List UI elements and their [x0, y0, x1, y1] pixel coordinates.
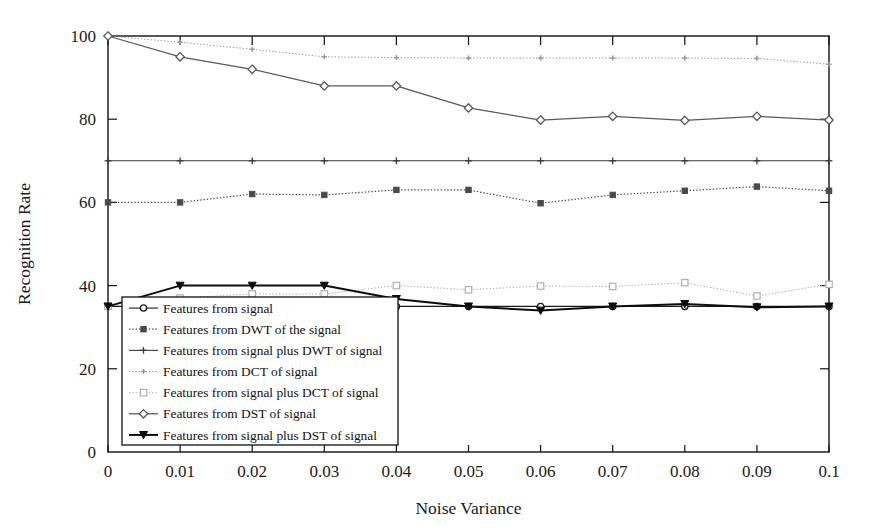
series-2: [105, 157, 833, 164]
x-tick-label: 0: [104, 462, 113, 481]
series-marker: [393, 282, 399, 288]
series-marker: [104, 32, 112, 40]
legend-marker: [140, 389, 146, 395]
series-marker: [825, 116, 833, 124]
chart-figure: 00.010.020.030.040.050.060.070.080.090.1…: [0, 0, 884, 530]
legend-item-label: Features from signal plus DWT of signal: [163, 343, 382, 358]
y-tick-label: 20: [79, 360, 96, 379]
legend-item-label: Features from signal plus DCT of signal: [163, 385, 379, 400]
y-tick-label: 0: [88, 443, 97, 462]
series-group: [104, 32, 833, 315]
series-marker: [176, 53, 184, 61]
series-marker: [466, 187, 471, 192]
series-marker: [464, 104, 472, 112]
series-marker: [249, 291, 255, 297]
x-tick-label: 0.08: [670, 462, 700, 481]
x-tick-label: 0.05: [454, 462, 484, 481]
series-marker: [536, 116, 544, 124]
series-marker: [826, 281, 832, 287]
legend-marker: [140, 305, 146, 311]
series-marker: [465, 287, 471, 293]
x-tick-label: 0.06: [526, 462, 556, 481]
series-marker: [537, 283, 543, 289]
x-tick-label: 0.02: [237, 462, 267, 481]
series-marker: [826, 188, 831, 193]
series-marker: [248, 65, 256, 73]
legend-item[interactable]: Features from signal plus DCT of signal: [129, 385, 379, 400]
x-tick-label: 0.01: [165, 462, 195, 481]
series-marker: [392, 82, 400, 90]
series-marker: [610, 283, 616, 289]
y-tick-label: 40: [79, 277, 96, 296]
series-marker: [682, 188, 687, 193]
legend-item-label: Features from signal plus DST of signal: [163, 428, 377, 443]
legend-marker: [141, 327, 146, 332]
y-axis-title: Recognition Rate: [14, 183, 34, 305]
legend-item[interactable]: Features from signal plus DWT of signal: [129, 343, 382, 358]
series-marker: [682, 279, 688, 285]
x-tick-label: 0.1: [818, 462, 839, 481]
x-tick-label: 0.03: [309, 462, 339, 481]
series-marker: [322, 192, 327, 197]
y-tick-label: 60: [79, 193, 96, 212]
legend-item-label: Features from signal: [163, 301, 273, 316]
series-marker: [250, 191, 255, 196]
series-1: [105, 184, 831, 206]
series-marker: [321, 291, 327, 297]
x-tick-label: 0.07: [598, 462, 628, 481]
legend-item[interactable]: Features from signal plus DST of signal: [129, 428, 377, 443]
series-marker: [681, 116, 689, 124]
series-marker: [754, 184, 759, 189]
series-marker: [753, 112, 761, 120]
legend-item-label: Features from DCT of signal: [163, 364, 318, 379]
series-marker: [320, 82, 328, 90]
legend-item-label: Features from DWT of the signal: [163, 322, 341, 337]
y-tick-label: 80: [79, 110, 96, 129]
recognition-rate-line-chart: 00.010.020.030.040.050.060.070.080.090.1…: [0, 0, 884, 530]
x-tick-label: 0.04: [382, 462, 412, 481]
series-marker: [538, 201, 543, 206]
x-axis-title: Noise Variance: [415, 498, 521, 518]
series-marker: [105, 200, 110, 205]
legend-item-label: Features from DST of signal: [163, 406, 316, 421]
series-marker: [610, 192, 615, 197]
series-marker: [394, 187, 399, 192]
x-tick-label: 0.09: [742, 462, 772, 481]
series-marker: [177, 200, 182, 205]
series-marker: [609, 112, 617, 120]
y-tick-label: 100: [71, 27, 97, 46]
legend: Features from signalFeatures from DWT of…: [122, 297, 398, 445]
series-marker: [754, 293, 760, 299]
